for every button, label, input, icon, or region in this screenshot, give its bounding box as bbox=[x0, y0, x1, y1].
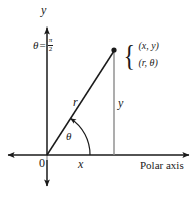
y-axis-label: y bbox=[41, 4, 46, 16]
rectangular-coordinates-label: (x, y) bbox=[138, 41, 159, 51]
radius-segment bbox=[47, 51, 114, 155]
curly-brace-icon: { bbox=[123, 42, 135, 67]
theta-equals-pi-over-two-label: θ=π2 bbox=[33, 38, 53, 54]
point-coordinate-labels: { (x, y) (r, θ) bbox=[122, 41, 159, 68]
angle-theta-label: θ bbox=[66, 131, 71, 142]
pi-over-two-fraction: π2 bbox=[48, 37, 54, 53]
pi-numerator: π bbox=[48, 37, 54, 44]
equals-sign: = bbox=[39, 39, 45, 51]
theta-arc bbox=[71, 119, 91, 156]
radius-label: r bbox=[73, 96, 78, 108]
polar-coordinates-figure: y θ=π2 r y x θ 0 Polar axis { (x, y) (r,… bbox=[0, 0, 196, 198]
origin-label: 0 bbox=[39, 157, 45, 169]
coordinate-stack: (x, y) (r, θ) bbox=[138, 41, 159, 68]
two-denominator: 2 bbox=[48, 46, 54, 53]
vertical-leg-label: y bbox=[118, 97, 123, 109]
horizontal-leg-label: x bbox=[78, 158, 83, 170]
polar-coordinates-label: (r, θ) bbox=[138, 58, 159, 68]
polar-axis-label: Polar axis bbox=[140, 160, 184, 171]
theta-symbol: θ bbox=[33, 39, 38, 51]
terminal-point-dot bbox=[111, 47, 116, 52]
